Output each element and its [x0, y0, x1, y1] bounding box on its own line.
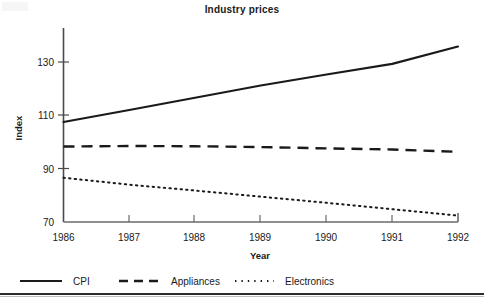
page-divider-rule	[0, 293, 484, 295]
x-axis-title: Year	[250, 250, 270, 261]
y-axis-title: Index	[13, 115, 24, 141]
chart-figure: Industry prices 130 110 90 70 Index 19	[0, 0, 484, 302]
x-tick-label-1988: 1988	[183, 232, 206, 243]
legend-label-cpi: CPI	[73, 276, 90, 287]
y-tick-label-70: 70	[43, 217, 55, 228]
x-tick-marks	[129, 213, 458, 222]
chart-plot-area: 130 110 90 70 Index 1986 1987 1988 1989 …	[0, 0, 484, 302]
x-tick-label-1992: 1992	[447, 232, 470, 243]
legend-label-appliances: Appliances	[171, 276, 220, 287]
y-tick-label-130: 130	[37, 57, 54, 68]
x-tick-label-1991: 1991	[381, 232, 404, 243]
x-tick-label-1987: 1987	[118, 232, 141, 243]
y-tick-label-110: 110	[38, 110, 54, 121]
x-tick-label-1989: 1989	[249, 232, 272, 243]
series-line-cpi	[64, 47, 459, 122]
x-tick-label-1990: 1990	[315, 232, 338, 243]
series-line-electronics	[64, 178, 459, 216]
page-divider-rule-shadow	[0, 296, 484, 297]
series-line-appliances	[64, 146, 459, 152]
legend-label-electronics: Electronics	[285, 276, 334, 287]
x-tick-label-1986: 1986	[52, 232, 75, 243]
chart-legend: CPI Appliances Electronics	[20, 276, 334, 287]
y-tick-label-90: 90	[43, 164, 55, 175]
